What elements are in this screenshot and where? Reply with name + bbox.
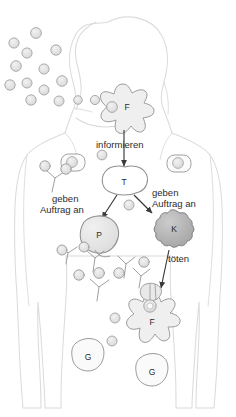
label-informieren: informieren (96, 139, 144, 150)
label-geben-auftrag-left-line2: Auftrag an (40, 204, 84, 215)
pathogen (54, 96, 64, 106)
pathogen (74, 96, 83, 105)
memory-cell-left-label: G (85, 352, 92, 362)
memory-cell-right-label: G (149, 367, 156, 377)
pathogen (26, 95, 36, 105)
label-geben-auftrag-left-line1: geben (52, 193, 78, 204)
pathogen (51, 45, 61, 55)
pathogen (39, 85, 49, 95)
phagocyte-head-label: F (124, 102, 129, 112)
pathogen (22, 78, 32, 88)
pathogen (110, 313, 120, 323)
plasma-cell-label: P (96, 230, 102, 240)
pathogen (31, 28, 42, 39)
pathogen (11, 61, 22, 72)
pathogen (107, 336, 117, 346)
immune-response-diagram: F informieren T geben Auftrag an geben A… (0, 0, 236, 417)
killer-cell-label: K (171, 224, 177, 234)
pathogen (5, 80, 15, 90)
label-toeten: töten (168, 253, 189, 264)
pathogen (57, 76, 68, 87)
t-cell-label: T (121, 177, 126, 187)
antibody (74, 268, 124, 301)
pathogen (9, 38, 19, 48)
pathogen (22, 48, 32, 58)
phagocyte-abdomen-label: F (149, 317, 154, 327)
label-geben-auftrag-right-line1: geben (152, 187, 178, 198)
pathogen (97, 150, 107, 160)
t-cell: T (102, 166, 147, 195)
infected-cell-fragment (140, 283, 161, 300)
pathogen (90, 95, 99, 104)
engulfed-pathogen (107, 102, 118, 113)
diagram-canvas: F informieren T geben Auftrag an geben A… (0, 0, 236, 417)
memory-cell-right: G (136, 354, 168, 386)
label-geben-auftrag-right-line2: Auftrag an (152, 198, 196, 209)
memory-cell-left: G (72, 339, 104, 371)
lymphocyte-right (167, 155, 191, 172)
pathogen (124, 200, 134, 210)
pathogen (39, 64, 49, 74)
